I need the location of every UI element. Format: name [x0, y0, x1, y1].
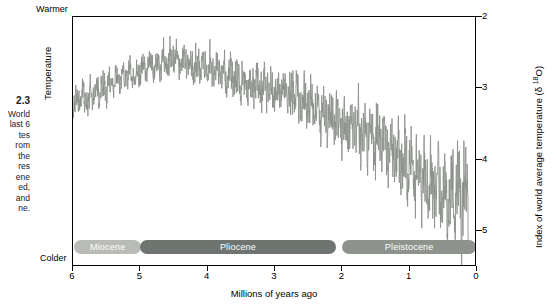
y-axis-right-text: Index of world average temperature: [533, 98, 544, 248]
y-axis-right-units: (δ 18O): [533, 66, 544, 98]
temperature-series-svg: [73, 17, 475, 265]
x-axis-tick-mark: [139, 266, 140, 271]
y-axis-right-title: Index of world average temperature (δ 18…: [532, 66, 544, 248]
caption-line: rom: [0, 140, 30, 151]
y-axis-right-tick-mark: [476, 230, 482, 231]
x-axis-tick: 1: [402, 270, 416, 281]
x-axis-tick: 2: [334, 270, 348, 281]
x-axis-tick-mark: [341, 266, 342, 271]
y-axis-right-tick-mark: [476, 16, 482, 17]
x-axis-title: Millions of years ago: [0, 288, 557, 299]
caption-line: ed,: [0, 182, 30, 193]
x-axis-tick: 0: [469, 270, 483, 281]
x-axis-tick: 3: [267, 270, 281, 281]
figure-caption: 2.3 World last 6 tes rom the res ene ed,…: [0, 96, 30, 214]
caption-line: and: [0, 193, 30, 204]
x-axis-tick-mark: [72, 266, 73, 271]
warmer-label: Warmer: [36, 4, 68, 14]
epoch-bar-pleistocene: Pleistocene: [342, 240, 476, 254]
epoch-bar-miocene: Miocene: [74, 240, 141, 254]
y-axis-left-title: Temperature: [42, 47, 53, 100]
caption-line: ne.: [0, 203, 30, 214]
y-axis-right-tick-mark: [476, 159, 482, 160]
x-axis-tick-mark: [274, 266, 275, 271]
epoch-bar-row: Miocene Pliocene Pleistocene: [73, 240, 475, 254]
caption-line: World: [0, 109, 30, 120]
chart-plot-area: Miocene Pliocene Pleistocene: [72, 16, 476, 266]
y-axis-right-tick: 5: [482, 224, 494, 235]
x-axis-tick: 6: [65, 270, 79, 281]
x-axis-tick: 5: [132, 270, 146, 281]
figure-number: 2.3: [0, 96, 30, 107]
x-axis-title-text: Millions of years ago: [72, 288, 476, 299]
y-axis-right-tick-mark: [476, 87, 482, 88]
caption-line: last 6: [0, 119, 30, 130]
y-axis-right-tick: 4: [482, 153, 494, 164]
x-axis-tick-mark: [207, 266, 208, 271]
caption-line: res: [0, 161, 30, 172]
x-axis-tick-mark: [409, 266, 410, 271]
epoch-bar-pliocene: Pliocene: [140, 240, 335, 254]
epoch-label: Pliocene: [220, 242, 256, 252]
y-axis-right-tick: 2: [482, 10, 494, 21]
x-axis-tick-mark: [476, 266, 477, 271]
epoch-label: Miocene: [90, 242, 125, 252]
temperature-series: [73, 17, 475, 265]
x-axis-tick: 4: [200, 270, 214, 281]
y-axis-right-tick: 3: [482, 81, 494, 92]
caption-line: ene: [0, 172, 30, 183]
caption-line: tes: [0, 130, 30, 141]
colder-label: Colder: [40, 253, 67, 263]
caption-line: the: [0, 151, 30, 162]
epoch-label: Pleistocene: [385, 242, 434, 252]
